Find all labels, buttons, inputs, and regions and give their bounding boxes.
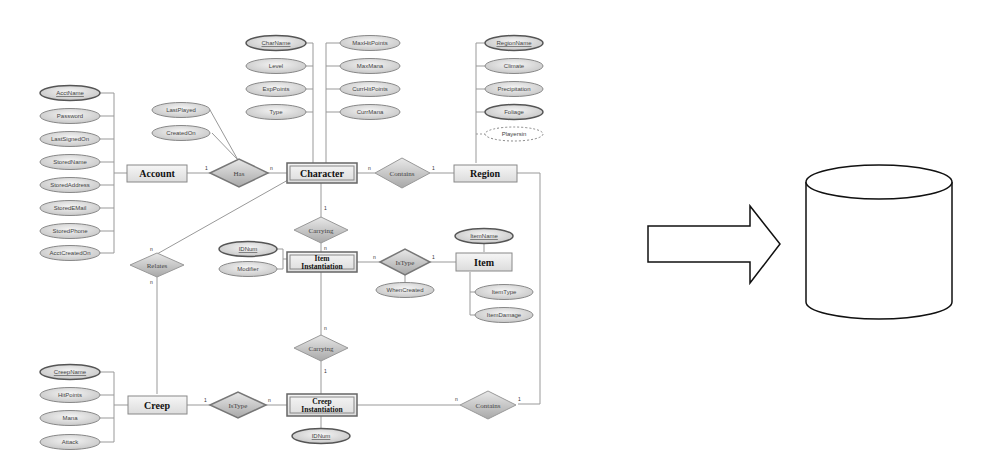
svg-text:Carrying: Carrying bbox=[309, 345, 334, 353]
relationship-istype-creep: IsType bbox=[210, 392, 266, 418]
svg-text:IsType: IsType bbox=[229, 402, 248, 410]
svg-text:n: n bbox=[455, 396, 458, 402]
relationship-contains-top: Contains bbox=[375, 158, 430, 188]
attr-itemdamage: ItemDamage bbox=[475, 308, 533, 323]
svg-text:Mana: Mana bbox=[62, 415, 78, 421]
svg-text:Region: Region bbox=[470, 168, 500, 179]
svg-text:1: 1 bbox=[205, 165, 208, 171]
svg-text:Password: Password bbox=[57, 113, 83, 119]
account-attributes: AcctName Password LastSignedOn StoredNam… bbox=[40, 86, 100, 261]
attr-whencreated: WhenCreated bbox=[376, 283, 434, 298]
entity-item-instantiation: Item Instantiation bbox=[287, 252, 357, 272]
svg-text:IsType: IsType bbox=[396, 259, 415, 267]
svg-text:HitPoints: HitPoints bbox=[58, 392, 82, 398]
svg-text:Relates: Relates bbox=[147, 262, 168, 270]
svg-text:Type: Type bbox=[269, 109, 283, 115]
entity-character: Character bbox=[287, 163, 357, 183]
svg-text:WhenCreated: WhenCreated bbox=[386, 287, 423, 293]
istype-attributes: WhenCreated bbox=[376, 283, 434, 298]
attr-lastsignedon: LastSignedOn bbox=[40, 132, 100, 147]
svg-text:MaxHitPoints: MaxHitPoints bbox=[352, 40, 387, 46]
item-instantiation-attributes: IDNum Modifier bbox=[219, 242, 277, 277]
svg-text:1: 1 bbox=[518, 396, 521, 402]
attr-exppoints: ExpPoints bbox=[246, 82, 306, 97]
svg-text:n: n bbox=[368, 165, 371, 171]
svg-text:1: 1 bbox=[432, 254, 435, 260]
svg-text:1: 1 bbox=[324, 368, 327, 374]
entity-creep-instantiation: Creep Instantiation bbox=[287, 394, 357, 416]
region-attributes: RegionName Climate Precipitation Foliage… bbox=[485, 36, 543, 142]
svg-text:IDNum: IDNum bbox=[239, 246, 258, 252]
svg-text:n: n bbox=[268, 397, 271, 403]
attr-regionname: RegionName bbox=[485, 36, 543, 51]
attr-attack: Attack bbox=[40, 435, 100, 450]
attr-itemname: ItemName bbox=[455, 229, 513, 244]
svg-text:CreatedOn: CreatedOn bbox=[166, 130, 195, 136]
attr-precipitation: Precipitation bbox=[485, 82, 543, 97]
svg-text:1: 1 bbox=[204, 397, 207, 403]
attr-password: Password bbox=[40, 109, 100, 124]
svg-text:Contains: Contains bbox=[390, 170, 415, 178]
svg-text:Modifier: Modifier bbox=[237, 266, 258, 272]
attr-lastplayed: LastPlayed bbox=[152, 103, 210, 118]
svg-text:Has: Has bbox=[234, 170, 245, 178]
attr-storedaddress: StoredAddress bbox=[40, 178, 100, 193]
attr-hitpoints: HitPoints bbox=[40, 388, 100, 403]
relationship-relates: Relates bbox=[130, 253, 184, 277]
entity-creep: Creep bbox=[128, 396, 187, 414]
svg-text:CharName: CharName bbox=[261, 40, 291, 46]
svg-text:StoredAddress: StoredAddress bbox=[50, 182, 90, 188]
svg-text:Climate: Climate bbox=[504, 63, 525, 69]
attr-level: Level bbox=[246, 59, 306, 74]
attr-acctname: AcctName bbox=[40, 86, 100, 101]
character-attributes: CharName Level ExpPoints Type MaxHitPoin… bbox=[246, 36, 400, 120]
attr-charname: CharName bbox=[246, 36, 306, 51]
relationship-has: Has bbox=[210, 159, 268, 187]
attr-currhitpoints: CurrHitPoints bbox=[340, 82, 400, 97]
svg-text:Level: Level bbox=[269, 63, 283, 69]
creep-attributes: CreepName HitPoints Mana Attack bbox=[40, 365, 100, 450]
svg-text:StoredEMail: StoredEMail bbox=[54, 205, 87, 211]
attr-maxhitpoints: MaxHitPoints bbox=[340, 36, 400, 51]
svg-text:StoredName: StoredName bbox=[53, 159, 87, 165]
svg-text:StoredPhone: StoredPhone bbox=[52, 228, 88, 234]
svg-text:Character: Character bbox=[300, 168, 344, 179]
svg-text:ItemName: ItemName bbox=[470, 233, 498, 239]
attr-storedphone: StoredPhone bbox=[40, 224, 100, 239]
attr-modifier: Modifier bbox=[219, 262, 277, 277]
attr-storedemail: StoredEMail bbox=[40, 201, 100, 216]
svg-text:Playersin: Playersin bbox=[502, 131, 527, 137]
svg-text:AcctCreatedOn: AcctCreatedOn bbox=[49, 250, 90, 256]
svg-text:ExpPoints: ExpPoints bbox=[262, 86, 289, 92]
svg-text:n: n bbox=[150, 279, 153, 285]
relationship-istype-item: IsType bbox=[380, 249, 430, 275]
svg-text:CurrMana: CurrMana bbox=[357, 109, 384, 115]
attr-climate: Climate bbox=[485, 59, 543, 74]
right-arrow-icon bbox=[648, 206, 780, 283]
attr-acctcreatedon: AcctCreatedOn bbox=[40, 246, 100, 261]
attr-currmana: CurrMana bbox=[340, 105, 400, 120]
svg-text:Carrying: Carrying bbox=[309, 227, 334, 235]
svg-text:IDNum: IDNum bbox=[312, 433, 331, 439]
svg-text:Foliage: Foliage bbox=[504, 109, 524, 115]
svg-text:Instantiation: Instantiation bbox=[301, 262, 343, 271]
attr-playersin: Playersin bbox=[485, 127, 543, 141]
er-diagram-canvas: AcctName Password LastSignedOn StoredNam… bbox=[0, 0, 991, 475]
has-attributes: LastPlayed CreatedOn bbox=[152, 103, 210, 141]
svg-text:LastPlayed: LastPlayed bbox=[166, 107, 196, 113]
attr-storedname: StoredName bbox=[40, 155, 100, 170]
svg-text:n: n bbox=[150, 246, 153, 252]
attr-mana: Mana bbox=[40, 411, 100, 426]
svg-text:n: n bbox=[270, 165, 273, 171]
svg-text:Precipitation: Precipitation bbox=[497, 86, 530, 92]
svg-text:Item: Item bbox=[474, 257, 495, 268]
svg-text:1: 1 bbox=[432, 165, 435, 171]
svg-text:1: 1 bbox=[324, 205, 327, 211]
svg-text:MaxMana: MaxMana bbox=[357, 63, 384, 69]
relationship-carrying-top: Carrying bbox=[294, 217, 348, 243]
attr-idnum-creep: IDNum bbox=[292, 429, 350, 444]
creep-instantiation-attributes: IDNum bbox=[292, 429, 350, 444]
attr-itemtype: ItemType bbox=[475, 285, 533, 300]
svg-text:n: n bbox=[324, 245, 327, 251]
entity-item: Item bbox=[456, 253, 512, 271]
